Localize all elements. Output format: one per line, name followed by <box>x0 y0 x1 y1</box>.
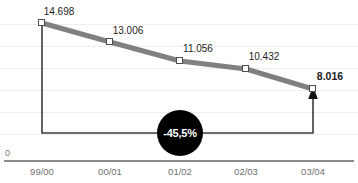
data-point-marker <box>177 58 183 64</box>
x-axis-tick-label: 02/03 <box>234 166 258 177</box>
line-chart: 14.698 13.006 11.056 10.432 8.016 -45,5%… <box>0 0 358 183</box>
change-badge: -45,5% <box>157 110 203 156</box>
change-badge-label: -45,5% <box>163 127 197 139</box>
x-axis-tick-label: 03/04 <box>301 166 325 177</box>
data-label: 13.006 <box>113 25 144 36</box>
x-axis-tick-label: 01/02 <box>168 166 192 177</box>
x-axis-tick-label: 00/01 <box>98 166 122 177</box>
data-label: 14.698 <box>44 6 75 17</box>
x-axis <box>4 160 354 162</box>
data-point-marker <box>243 66 249 72</box>
data-point-marker <box>107 39 113 45</box>
data-label-highlighted: 8.016 <box>317 70 343 82</box>
data-point-marker <box>39 20 45 26</box>
x-axis-tick-label: 99/00 <box>30 166 54 177</box>
data-label: 10.432 <box>249 51 280 62</box>
data-point-marker <box>310 86 316 92</box>
axis-origin-label: 0 <box>5 148 10 158</box>
data-label: 11.056 <box>183 43 213 54</box>
